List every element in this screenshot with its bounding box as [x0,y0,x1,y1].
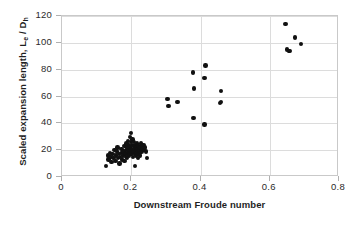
gridline-horizontal [62,150,337,151]
x-axis-tick-label: 0.4 [180,181,220,192]
gridline-horizontal [62,16,337,17]
y-axis-tick [56,69,61,70]
data-point [293,35,297,39]
y-axis-tick-label: 80 [0,63,52,74]
data-point [175,100,179,104]
data-point [299,42,303,46]
data-point [104,164,108,168]
gridline-horizontal [62,97,337,98]
y-axis-tick [56,149,61,150]
gridline-horizontal [62,123,337,124]
y-axis-tick-label: 40 [0,116,52,127]
data-point [202,122,206,126]
gridline-horizontal [62,70,337,71]
data-point [202,76,206,80]
x-axis-tick-label: 0.2 [110,181,150,192]
data-point [203,63,207,67]
data-point [166,104,170,108]
data-point [145,156,149,160]
data-point [191,70,195,74]
data-point [191,116,195,120]
y-axis-tick-label: 60 [0,90,52,101]
y-axis-tick-label: 100 [0,36,52,47]
data-point [138,153,142,157]
data-point [192,86,196,90]
y-axis-tick-label: 0 [0,170,52,181]
x-axis-tick-label: 0.6 [249,181,289,192]
gridline-vertical [201,16,202,175]
plot-area [61,15,338,176]
y-axis-tick [56,122,61,123]
x-axis-title: Downstream Froude number [61,199,338,210]
gridline-horizontal [62,43,337,44]
data-point [144,149,148,153]
y-axis-tick-label: 20 [0,143,52,154]
data-point [133,164,137,168]
data-point [287,49,291,53]
x-axis-tick-label: 0 [41,181,81,192]
y-axis-tick [56,42,61,43]
gridline-vertical [270,16,271,175]
x-axis-tick-label: 0.8 [318,181,358,192]
data-point [129,131,133,135]
data-point [283,22,287,26]
scatter-chart-figure: Scaled expansion length, Le / Dh Downstr… [0,0,361,225]
data-point [117,161,121,165]
y-axis-tick [56,15,61,16]
data-point [165,97,169,101]
data-point [219,100,223,104]
y-axis-tick [56,96,61,97]
data-point [219,89,223,93]
y-axis-title-mid: / D [17,22,28,37]
y-axis-tick-label: 120 [0,9,52,20]
